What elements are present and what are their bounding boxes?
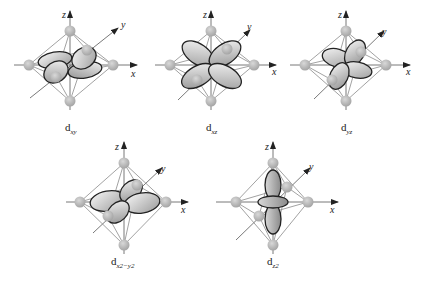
orbital-label-dxz: dxz: [206, 121, 218, 136]
d-orbitals-figure: z y x dxy z y x: [0, 0, 424, 281]
y-axis-label: y: [160, 163, 166, 174]
x-axis-label: x: [180, 204, 186, 215]
y-axis-label: y: [381, 26, 387, 37]
z-axis-label: z: [114, 141, 119, 152]
panel-dx2-y2: z y x dx2−y2: [66, 141, 188, 270]
orbital-lobes: [258, 170, 288, 234]
x-axis-label: x: [405, 66, 411, 77]
orbital-lobes: [89, 175, 162, 227]
z-axis-label: z: [202, 9, 207, 20]
torus: [258, 196, 288, 208]
x-axis-label: x: [271, 66, 277, 77]
z-axis-label: z: [264, 141, 269, 152]
panel-dz2: z y x dz2: [216, 141, 338, 270]
y-axis-label: y: [308, 161, 314, 172]
y-axis-label: y: [246, 21, 252, 32]
y-axis-label: y: [120, 19, 126, 30]
x-axis-label: x: [130, 68, 136, 79]
orbital-label-dyz: dyz: [341, 121, 353, 136]
x-axis-label: x: [329, 204, 335, 215]
z-axis-label: z: [337, 9, 342, 20]
ligands: [24, 26, 119, 107]
panel-dyz: z y x dyz: [290, 9, 411, 136]
orbital-label-dz2: dz2: [267, 255, 279, 270]
panel-dxy: z y x dxy: [14, 9, 137, 136]
panel-dxz: z y x dxz: [155, 9, 277, 136]
z-axis-label: z: [61, 9, 66, 20]
orbital-label-dx2-y2: dx2−y2: [111, 255, 135, 270]
orbital-label-dxy: dxy: [65, 121, 78, 136]
